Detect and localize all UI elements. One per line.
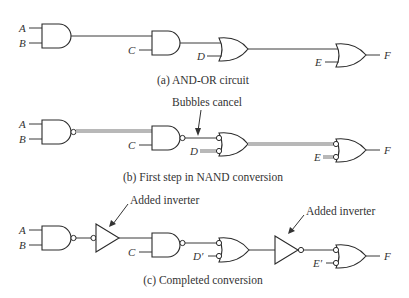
- arrow-bubbles-cancel: [198, 110, 201, 131]
- bubble-inverter-1-input: [91, 235, 96, 240]
- or-gate-inverted-inputs-1: [219, 133, 248, 156]
- panel-a-and-or-circuit: A B C D E F (a) AND-OR circuit: [18, 22, 391, 87]
- note-added-inverter-2: Added inverter: [306, 205, 375, 217]
- label-e: E: [314, 56, 322, 68]
- label-b: B: [19, 239, 26, 251]
- bubble-or1-bottom: [216, 253, 221, 258]
- or-gate-1: [219, 38, 248, 61]
- or-gate-inverted-inputs-1: [219, 238, 249, 262]
- bubble-or1-bottom: [216, 148, 221, 153]
- bubble-or2-top: [333, 247, 338, 252]
- bubble-nand-1: [71, 235, 76, 240]
- or-gate-inverted-inputs-2: [336, 139, 366, 162]
- nand-gate-1: [42, 226, 71, 250]
- panel-b-first-step: A B C D Bubbles cancel E F (b) F: [18, 96, 391, 184]
- or-gate-2: [336, 44, 366, 67]
- bubble-nand-1: [71, 129, 76, 134]
- label-f: F: [383, 250, 391, 262]
- nand-gate-2: [152, 126, 180, 150]
- label-c: C: [128, 246, 136, 258]
- label-c: C: [128, 44, 136, 56]
- caption-b: (b) First step in NAND conversion: [123, 171, 283, 184]
- label-b: B: [19, 133, 26, 145]
- bubble-or1-top: [216, 135, 221, 140]
- and-gate-1: [42, 24, 71, 48]
- bubble-nand-2: [180, 135, 185, 140]
- label-a: A: [18, 22, 26, 34]
- and-gate-2: [152, 31, 180, 55]
- label-d-prime: D′: [192, 250, 204, 262]
- panel-c-completed: A B Added inverter C D′ Added inverter: [18, 194, 391, 287]
- caption-c: (c) Completed conversion: [143, 274, 263, 287]
- arrowhead-bubbles-cancel: [195, 128, 201, 136]
- bubble-or2-bottom: [333, 154, 338, 159]
- label-e: E: [313, 151, 321, 163]
- nand-gate-1: [42, 120, 71, 144]
- label-d: D: [189, 145, 198, 157]
- added-inverter-2: [275, 236, 298, 264]
- label-c: C: [128, 139, 136, 151]
- label-d: D: [196, 50, 205, 62]
- bubble-or2-top: [333, 141, 338, 146]
- bubble-or1-top: [216, 240, 221, 245]
- note-added-inverter-1: Added inverter: [130, 194, 199, 206]
- label-a: A: [18, 118, 26, 130]
- note-bubbles-cancel: Bubbles cancel: [172, 96, 242, 108]
- bubble-or2-bottom: [333, 260, 338, 265]
- label-e-prime: E′: [312, 257, 323, 269]
- label-a: A: [18, 224, 26, 236]
- nand-gate-2: [152, 233, 180, 257]
- label-f: F: [383, 144, 391, 156]
- bubble-nand-2: [180, 240, 185, 245]
- caption-a: (a) AND-OR circuit: [157, 74, 250, 87]
- or-gate-inverted-inputs-2: [336, 245, 366, 268]
- label-f: F: [383, 49, 391, 61]
- label-b: B: [19, 37, 26, 49]
- arrow-added-inverter-2: [292, 215, 304, 230]
- arrow-added-inverter-1: [113, 204, 128, 224]
- added-inverter-1: [96, 224, 119, 252]
- logic-conversion-figure: A B C D E F (a) AND-OR circuit A B: [0, 0, 409, 298]
- bubble-inverter-2-output: [298, 247, 303, 252]
